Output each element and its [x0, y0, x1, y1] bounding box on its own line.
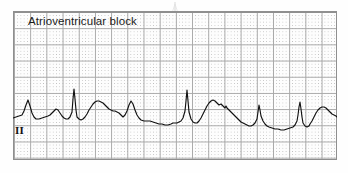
- ecg-grid-paper: [13, 11, 337, 160]
- annotation-title: Atrioventricular block: [28, 15, 137, 27]
- grid-top-border: [14, 12, 336, 13]
- lead-label-ii: II: [15, 124, 24, 136]
- ecg-screenshot: Atrioventricular block II: [0, 0, 348, 173]
